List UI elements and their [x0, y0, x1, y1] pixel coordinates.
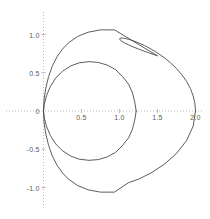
polar-plot-figure: 0.51.01.52.0-1.0-0.50.51.00 [0, 0, 210, 219]
y-tick-label-1: -0.5 [27, 146, 40, 153]
y-tick-label-2: 0.5 [29, 69, 39, 76]
x-tick-label-1: 0.5 [76, 114, 86, 121]
x-tick-label-3: 1.5 [152, 114, 162, 121]
origin-label: 0 [35, 108, 39, 115]
y-tick-label-0: -1.0 [27, 184, 40, 191]
x-tick-label-2: 1.0 [114, 114, 124, 121]
x-tick-label-4: 2.0 [190, 114, 200, 121]
y-tick-label-3: 1.0 [29, 31, 39, 38]
